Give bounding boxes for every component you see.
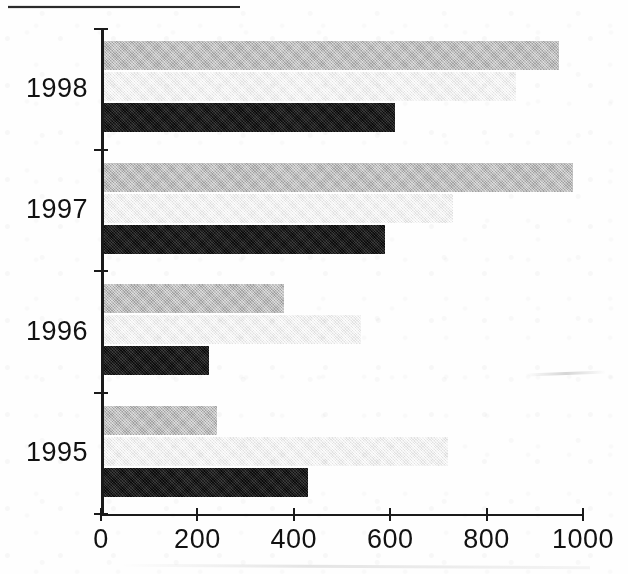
bar-1995-series-2 <box>101 437 448 466</box>
value-axis-line <box>101 514 584 516</box>
category-axis-top-cap <box>94 28 108 30</box>
bar-1997-series-1 <box>101 163 573 192</box>
bar-1997-series-3 <box>101 225 385 254</box>
category-label-1996: 1996 <box>4 316 88 346</box>
scan-artifact-bottom <box>120 564 590 569</box>
category-axis-labels: 1998199719961995 <box>0 0 88 574</box>
bar-1997-series-2 <box>101 194 453 223</box>
bar-1996-series-1 <box>101 284 284 313</box>
value-axis-label-400: 400 <box>254 524 334 554</box>
value-axis-label-1000: 1000 <box>543 524 623 554</box>
bar-1998-series-2 <box>101 72 516 101</box>
value-axis-tick-200 <box>196 508 198 521</box>
category-label-1995: 1995 <box>4 437 88 467</box>
bar-1995-series-3 <box>101 468 308 497</box>
value-axis-label-0: 0 <box>61 524 141 554</box>
bar-1998-series-3 <box>101 103 395 132</box>
category-axis-tick <box>94 513 108 515</box>
category-axis-tick <box>94 149 108 151</box>
category-label-1997: 1997 <box>4 194 88 224</box>
value-axis-tick-400 <box>293 508 295 521</box>
bar-1996-series-3 <box>101 346 209 375</box>
value-axis-label-600: 600 <box>350 524 430 554</box>
bar-chart: 1998199719961995 02004006008001000 <box>0 0 628 574</box>
bar-1995-series-1 <box>101 406 217 435</box>
value-axis-tick-1000 <box>582 508 584 521</box>
bar-1998-series-1 <box>101 41 559 70</box>
category-axis-tick <box>94 392 108 394</box>
value-axis-label-200: 200 <box>157 524 237 554</box>
value-axis-tick-600 <box>389 508 391 521</box>
category-axis-tick <box>94 270 108 272</box>
value-axis-tick-800 <box>486 508 488 521</box>
value-axis-label-800: 800 <box>447 524 527 554</box>
plot-area <box>101 28 583 514</box>
category-label-1998: 1998 <box>4 73 88 103</box>
bar-1996-series-2 <box>101 315 361 344</box>
